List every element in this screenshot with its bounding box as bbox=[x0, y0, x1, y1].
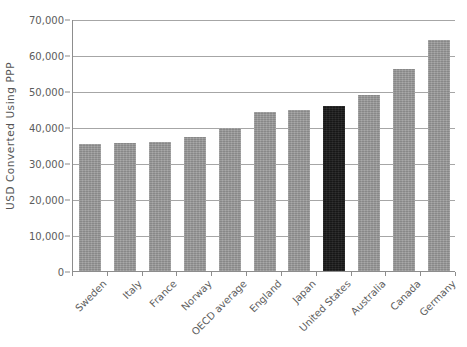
y-axis-tick-mark bbox=[65, 272, 70, 273]
x-axis-tick-mark bbox=[107, 272, 108, 276]
y-axis-tick-mark bbox=[65, 164, 70, 165]
x-axis-label-germany: Germany bbox=[417, 278, 457, 318]
bars-group bbox=[73, 20, 455, 271]
bar bbox=[428, 40, 450, 271]
y-axis-tick-label: 10,000 bbox=[29, 231, 64, 242]
y-axis-tick-mark bbox=[65, 92, 70, 93]
y-axis-tick-mark bbox=[65, 236, 70, 237]
y-axis-tick-mark bbox=[65, 20, 70, 21]
y-axis-title: USD Converted Using PPP bbox=[0, 0, 20, 272]
y-axis-tick-mark bbox=[65, 56, 70, 57]
x-axis-tick-mark bbox=[281, 272, 282, 276]
x-axis-tick-mark bbox=[142, 272, 143, 276]
y-axis-tick-label: 30,000 bbox=[29, 159, 64, 170]
y-axis-tick-label: 40,000 bbox=[29, 123, 64, 134]
bar bbox=[254, 112, 276, 271]
bar bbox=[393, 69, 415, 271]
bar bbox=[149, 142, 171, 271]
bar bbox=[184, 137, 206, 271]
bar bbox=[79, 144, 101, 271]
y-axis-tick-label: 60,000 bbox=[29, 51, 64, 62]
y-axis-tick-label: 20,000 bbox=[29, 195, 64, 206]
x-axis-label-australia: Australia bbox=[349, 278, 388, 317]
y-axis-tick-label: 70,000 bbox=[29, 15, 64, 26]
x-axis-tick-mark bbox=[211, 272, 212, 276]
plot-area bbox=[72, 20, 455, 272]
y-axis-tick-mark bbox=[65, 128, 70, 129]
y-axis-tick-label: 50,000 bbox=[29, 87, 64, 98]
x-axis-label-japan: Japan bbox=[291, 278, 318, 305]
bar bbox=[358, 95, 380, 271]
x-axis-tick-mark bbox=[455, 272, 456, 276]
x-axis-label-france: France bbox=[148, 278, 179, 309]
bar bbox=[219, 128, 241, 271]
x-axis-tick-mark bbox=[351, 272, 352, 276]
y-axis-tick-mark bbox=[65, 200, 70, 201]
x-axis-label-canada: Canada bbox=[388, 278, 423, 313]
y-axis-tick-labels: 70,00060,00050,00040,00030,00020,00010,0… bbox=[18, 0, 70, 292]
x-axis-ticks bbox=[72, 272, 455, 277]
y-axis-tick-label: 0 bbox=[58, 267, 64, 278]
x-axis-tick-mark bbox=[385, 272, 386, 276]
x-axis-category-labels: SwedenItalyFranceNorwayOECD averageEngla… bbox=[72, 278, 467, 347]
bar bbox=[114, 143, 136, 271]
x-axis-label-england: England bbox=[247, 278, 283, 314]
bar-chart: USD Converted Using PPP 70,00060,00050,0… bbox=[0, 0, 467, 347]
x-axis-tick-mark bbox=[316, 272, 317, 276]
x-axis-label-norway: Norway bbox=[179, 278, 214, 313]
x-axis-label-sweden: Sweden bbox=[73, 278, 109, 314]
x-axis-tick-mark bbox=[246, 272, 247, 276]
x-axis-tick-mark bbox=[420, 272, 421, 276]
x-axis-tick-mark bbox=[176, 272, 177, 276]
x-axis-tick-mark bbox=[72, 272, 73, 276]
y-axis-title-text: USD Converted Using PPP bbox=[4, 62, 16, 210]
bar bbox=[288, 110, 310, 271]
bar bbox=[323, 106, 345, 271]
x-axis-label-italy: Italy bbox=[121, 278, 144, 301]
